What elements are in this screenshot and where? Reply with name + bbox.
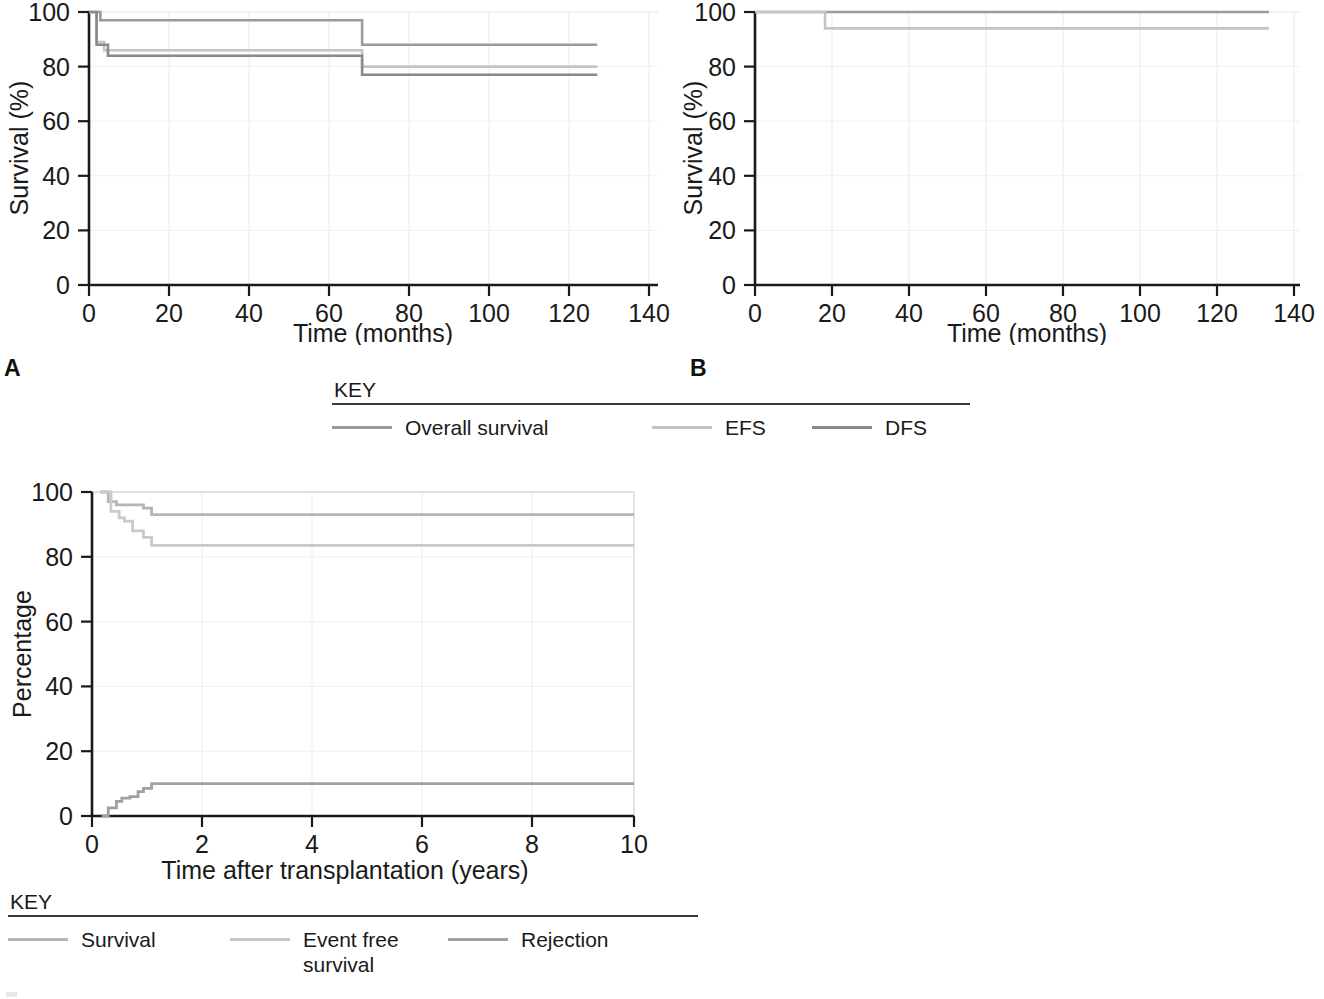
- legend-label-event-free-survival: Event free survival: [303, 927, 399, 977]
- ytick-60: 60: [45, 608, 73, 636]
- key-item-survival: Survival: [8, 927, 230, 952]
- series-line-rejection: [102, 784, 634, 816]
- key-bottom-title: KEY: [8, 890, 698, 914]
- key-item-efs: EFS: [652, 415, 812, 440]
- legend-swatch-event-free-survival: [230, 938, 290, 941]
- ytick-40: 40: [45, 672, 73, 700]
- series-line-overall-survival: [89, 12, 597, 45]
- key-item-event-free-survival: Event free survival: [230, 927, 448, 977]
- legend-label-dfs: DFS: [885, 415, 927, 440]
- legend-swatch-efs: [652, 426, 712, 429]
- panel-c-gridlines: [92, 492, 634, 816]
- ytick-60: 60: [42, 107, 70, 135]
- series-line-survival: [100, 492, 634, 515]
- panel-c-svg: 100 80 60 40 20 0 0 2 4 6 8 10 Percentag…: [0, 468, 690, 868]
- panel-b-gridlines: [755, 12, 1300, 285]
- ytick-60: 60: [708, 107, 736, 135]
- series-line-event-free-survival: [100, 492, 634, 545]
- panel-b-y-axis-label: Survival (%): [680, 81, 707, 216]
- ytick-80: 80: [42, 53, 70, 81]
- panel-c-chart: 100 80 60 40 20 0 0 2 4 6 8 10 Percentag…: [0, 468, 690, 868]
- legend-swatch-overall-survival: [332, 426, 392, 429]
- xtick-40: 40: [235, 299, 263, 327]
- ytick-100: 100: [31, 478, 73, 506]
- panel-a-ytick-labels: 100 80 60 40 20 0: [28, 0, 70, 299]
- panel-a-chart: 100 80 60 40 20 0 0 20 40 60 80 100 120 …: [0, 0, 690, 345]
- xtick-20: 20: [155, 299, 183, 327]
- key-item-overall-survival: Overall survival: [332, 415, 652, 440]
- legend-swatch-survival: [8, 938, 68, 941]
- legend-label-survival: Survival: [81, 927, 156, 952]
- panel-c-xtick-labels: 0 2 4 6 8 10: [85, 830, 648, 858]
- key-top-items: Overall survival EFS DFS: [332, 415, 970, 440]
- xtick-0: 0: [85, 830, 99, 858]
- panel-a-gridlines: [89, 12, 658, 285]
- panel-c-series: [100, 492, 634, 816]
- panel-a-x-axis-label: Time (months): [293, 319, 453, 345]
- panel-b-chart: 100 80 60 40 20 0 0 20 40 60 80 100 120 …: [680, 0, 1324, 345]
- xtick-10: 10: [620, 830, 648, 858]
- xtick-20: 20: [818, 299, 846, 327]
- xtick-40: 40: [895, 299, 923, 327]
- panel-b-x-axis-label: Time (months): [947, 319, 1107, 345]
- xtick-140: 140: [628, 299, 670, 327]
- legend-label-rejection: Rejection: [521, 927, 609, 952]
- panel-a-y-axis-label: Survival (%): [5, 81, 33, 216]
- key-top: KEY Overall survival EFS DFS: [332, 378, 970, 440]
- panel-b-svg: 100 80 60 40 20 0 0 20 40 60 80 100 120 …: [680, 0, 1324, 345]
- xtick-2: 2: [195, 830, 209, 858]
- ytick-100: 100: [694, 0, 736, 26]
- ytick-0: 0: [722, 271, 736, 299]
- ytick-20: 20: [708, 216, 736, 244]
- ytick-0: 0: [56, 271, 70, 299]
- xtick-120: 120: [548, 299, 590, 327]
- key-item-dfs: DFS: [812, 415, 927, 440]
- panel-a-svg: 100 80 60 40 20 0 0 20 40 60 80 100 120 …: [0, 0, 690, 345]
- panel-c-ytick-labels: 100 80 60 40 20 0: [31, 478, 73, 830]
- panel-c-x-axis-label: Time after transplantation (years): [161, 856, 528, 884]
- legend-swatch-dfs: [812, 426, 872, 429]
- panel-a-series: [89, 12, 597, 75]
- ytick-100: 100: [28, 0, 70, 26]
- panel-c-x-axis-label-wrap: Time after transplantation (years): [0, 856, 690, 885]
- legend-label-overall-survival: Overall survival: [405, 415, 549, 440]
- ytick-40: 40: [708, 162, 736, 190]
- key-top-rule: [332, 403, 970, 405]
- legend-label-efs: EFS: [725, 415, 766, 440]
- ytick-20: 20: [42, 216, 70, 244]
- ytick-80: 80: [708, 53, 736, 81]
- ytick-80: 80: [45, 543, 73, 571]
- key-top-title: KEY: [332, 378, 970, 402]
- ytick-40: 40: [42, 162, 70, 190]
- panel-c-axes: [81, 492, 634, 827]
- key-bottom-items: Survival Event free survival Rejection: [8, 927, 698, 977]
- page-corner-mark: [6, 992, 17, 997]
- ytick-20: 20: [45, 737, 73, 765]
- xtick-100: 100: [1119, 299, 1161, 327]
- xtick-120: 120: [1196, 299, 1238, 327]
- key-bottom: KEY Survival Event free survival Rejecti…: [8, 890, 698, 977]
- xtick-6: 6: [415, 830, 429, 858]
- panel-c-y-axis-label: Percentage: [8, 590, 36, 718]
- key-item-rejection: Rejection: [448, 927, 609, 952]
- xtick-100: 100: [468, 299, 510, 327]
- legend-swatch-rejection: [448, 938, 508, 941]
- xtick-4: 4: [305, 830, 319, 858]
- xtick-8: 8: [525, 830, 539, 858]
- key-bottom-rule: [8, 915, 698, 917]
- xtick-140: 140: [1273, 299, 1315, 327]
- xtick-0: 0: [82, 299, 96, 327]
- panel-a-letter: A: [4, 355, 21, 382]
- xtick-0: 0: [748, 299, 762, 327]
- ytick-0: 0: [59, 802, 73, 830]
